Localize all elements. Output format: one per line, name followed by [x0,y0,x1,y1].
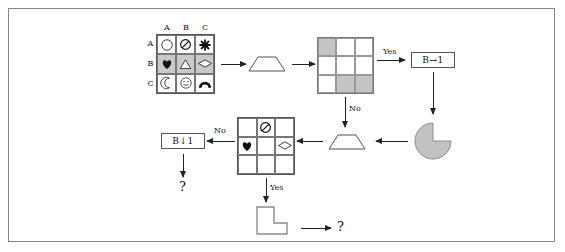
grid2-cell-1-3 [355,38,373,56]
grid1-cell-c-a [157,74,176,93]
grid3-cell-3-2 [257,155,276,174]
circle-icon [160,38,174,52]
grid3 [237,117,295,175]
arrow-pacman-to-trapezoid-bottom [376,141,408,142]
grid1-cell-c-c [195,74,214,93]
trapezoid-top [247,53,287,75]
pacman-pie-icon [413,121,453,161]
edge-label-no-right: No [349,104,361,113]
grid2-cell-1-2 [336,38,354,56]
grid1-cell-c-b [176,74,195,93]
no-entry-icon [259,121,272,134]
arrow-yes-down-from-grid3 [266,178,267,202]
grid3-cell-2-1 [238,137,257,156]
arrow-b-down-1-to-question [183,154,184,177]
grid2-cell-2-1 [318,56,336,74]
diamond-icon [197,58,213,69]
trapezoid-bottom [327,131,367,153]
grid1-col-header-a: A [158,23,176,32]
trapezoid-shape [247,53,287,75]
grid1-col-header-c: C [196,23,214,32]
grid3-cell-1-2 [257,118,276,137]
edge-label-yes-top: Yes [383,47,396,56]
box-b-right-1[interactable]: B→1 [411,52,455,68]
grid3-cell-2-2 [257,137,276,156]
flower-asterisk-icon [198,38,212,52]
grid2 [317,37,374,94]
grid2-cell-2-3 [355,56,373,74]
smiley-face-icon [179,76,193,90]
output-question-bottom: ? [337,219,344,234]
l-polyomino-icon [254,205,290,237]
heart-filled-icon [160,57,174,71]
heart-filled-icon [240,139,254,153]
arrow-yes-to-b-right-1 [377,60,405,61]
grid3-cell-3-3 [275,155,294,174]
arrow-no-to-b-down-1 [207,141,235,142]
grid1-container: A B C A B C [146,23,216,101]
l-shape [254,205,290,237]
grid2-cell-1-1 [318,38,336,56]
grid2-cell-3-3 [355,75,373,93]
arch-icon [197,78,213,89]
grid3-cell-3-1 [238,155,257,174]
edge-label-yes-bottom: Yes [270,183,283,192]
arrow-trapezoid-bottom-to-grid3 [297,141,323,142]
grid3-cell-2-3 [275,137,294,156]
arrow-no-down-from-grid2 [345,97,346,127]
grid2-cell-2-2 [336,56,354,74]
grid1-col-header-b: B [177,23,195,32]
grid2-cell-3-1 [318,75,336,93]
grid2-cell-3-2 [336,75,354,93]
grid1-row-header-b: B [146,59,155,68]
diagram-frame: A B C A B C [8,8,555,242]
grid1-cell-b-c [195,54,214,73]
grid1-row-header-c: C [146,79,155,88]
no-entry-icon [179,38,192,51]
grid3-cell-1-3 [275,118,294,137]
arrow-lshape-to-question [301,228,331,229]
grid1-cell-a-b [176,35,195,54]
arrow-b-right-1-to-pacman [433,72,434,114]
arrow-trapezoid-to-grid2 [292,64,315,65]
screenshot-root: A B C A B C [0,0,565,252]
box-b-down-1[interactable]: B↓1 [161,133,205,149]
grid1-cell-b-a [157,54,176,73]
grid1-cell-a-a [157,35,176,54]
grid1-cell-b-b [176,54,195,73]
diamond-icon [277,140,293,151]
pacman-shape [413,121,453,161]
edge-label-no-left: No [214,126,226,135]
trapezoid-shape-2 [327,131,367,153]
grid1-row-header-a: A [146,39,155,48]
crescent-moon-icon [160,76,174,90]
grid1-cell-a-c [195,35,214,54]
arrow-grid1-to-trapezoid [221,64,246,65]
output-question-left: ? [179,179,186,194]
grid1 [156,34,215,94]
grid3-cell-1-1 [238,118,257,137]
triangle-icon [178,57,193,71]
